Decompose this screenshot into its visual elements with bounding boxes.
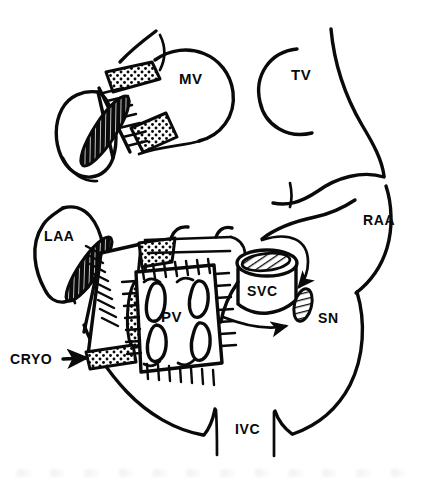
label-tricuspid-valve: TV	[291, 66, 311, 83]
label-mitral-valve: MV	[179, 70, 203, 87]
label-superior-vena-cava: SVC	[247, 283, 278, 299]
figure-root: MV TV LAA RAA SVC SN PV IVC CRYO	[0, 0, 427, 482]
label-pulmonary-veins: PV	[161, 308, 182, 325]
label-inferior-vena-cava: IVC	[235, 421, 260, 437]
svc-arrow-lower	[223, 317, 286, 328]
label-left-atrial-appendage: LAA	[44, 228, 75, 244]
cryo-lesion-mitral-superior	[106, 62, 160, 92]
label-right-atrial-appendage: RAA	[363, 212, 395, 228]
heart-maze-diagram: MV TV LAA RAA SVC SN PV IVC CRYO	[0, 0, 427, 482]
cryo-arrow	[63, 358, 86, 359]
label-sinus-node: SN	[318, 310, 339, 326]
label-cryoablation: CRYO	[10, 351, 52, 367]
